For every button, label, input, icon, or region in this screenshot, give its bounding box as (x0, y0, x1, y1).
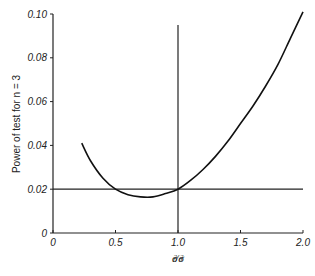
y-tick-label: 0.06 (28, 96, 48, 107)
x-tick-label: 2.0 (295, 237, 310, 248)
x-tick-label: 1.5 (234, 237, 248, 248)
y-tick-label: 0.04 (28, 140, 48, 151)
reference-lines (53, 25, 303, 233)
y-tick-labels: 00.020.040.060.080.10 (28, 9, 48, 239)
x-axis-label: σ21/σ20 (172, 252, 185, 264)
y-tick-label: 0.10 (28, 9, 48, 20)
tick-marks (50, 14, 303, 233)
x-tick-label: 1.0 (171, 237, 185, 248)
x-tick-label: 0 (50, 237, 56, 248)
power-curve-chart: 00.020.040.060.080.10 00.51.01.52.0 Powe… (0, 0, 315, 276)
y-tick-label: 0 (41, 228, 47, 239)
y-tick-label: 0.08 (28, 52, 48, 63)
y-axis-label: Power of test for n = 3 (11, 75, 22, 174)
y-tick-label: 0.02 (28, 184, 48, 195)
x-tick-label: 0.5 (109, 237, 123, 248)
x-tick-labels: 00.51.01.52.0 (50, 237, 310, 248)
power-curve-line (82, 12, 303, 197)
